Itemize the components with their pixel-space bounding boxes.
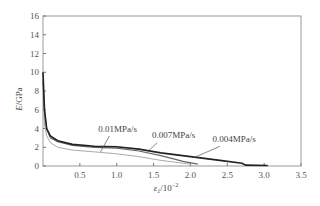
y-tick-label: 2: [35, 142, 40, 152]
series-line: [43, 82, 198, 165]
y-tick-label: 6: [35, 105, 40, 115]
modulus-strain-chart: 02468101214160.51.01.52.02.53.03.5ε1/10−…: [0, 0, 320, 206]
x-tick-label: 3.5: [295, 170, 307, 180]
series-annotation: 0.004MPa/s: [213, 134, 257, 144]
y-tick-label: 16: [30, 11, 40, 21]
leader-line: [194, 146, 220, 157]
y-axis-label: E/GPa: [14, 87, 24, 112]
leader-line: [148, 143, 157, 151]
series-line: [43, 72, 268, 165]
x-tick-label: 2.0: [185, 170, 197, 180]
x-tick-label: 1.0: [111, 170, 123, 180]
x-tick-label: 2.5: [222, 170, 234, 180]
x-tick-label: 3.0: [259, 170, 271, 180]
y-tick-label: 14: [30, 30, 40, 40]
leader-line: [100, 136, 109, 152]
y-tick-label: 10: [30, 67, 40, 77]
y-tick-label: 12: [30, 49, 39, 59]
x-tick-label: 0.5: [74, 170, 86, 180]
series-annotation: 0.007MPa/s: [152, 130, 196, 140]
y-tick-label: 0: [35, 161, 40, 171]
y-tick-label: 4: [35, 124, 40, 134]
x-axis-label: ε1/10−2: [154, 182, 178, 194]
plot-frame: [43, 16, 301, 166]
y-tick-label: 8: [35, 86, 40, 96]
series-annotation: 0.01MPa/s: [98, 124, 137, 134]
x-tick-label: 1.5: [148, 170, 160, 180]
